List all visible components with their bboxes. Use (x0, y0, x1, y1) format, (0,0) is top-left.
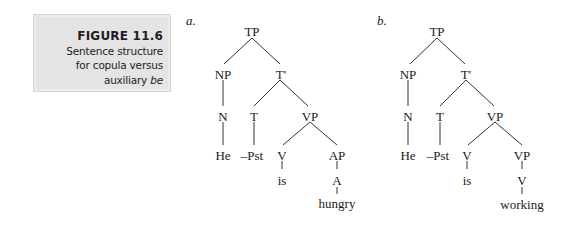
tree-a: a. TP NP T' N T VP He –Pst V AP is A hun… (186, 13, 356, 211)
node-tbar: T' (461, 67, 471, 82)
node-ap: AP (329, 148, 346, 163)
node-n: N (403, 109, 413, 124)
edge (252, 38, 280, 64)
node-v: V (277, 148, 287, 163)
node-a: A (332, 173, 342, 188)
edge (437, 38, 465, 64)
node-np: NP (400, 67, 417, 82)
edge (224, 38, 252, 64)
edge (468, 122, 495, 145)
node-pst: –Pst (426, 148, 450, 163)
edge (495, 122, 522, 145)
node-working: working (500, 197, 544, 212)
edge (410, 38, 437, 64)
node-hungry: hungry (319, 196, 356, 211)
node-tp: TP (244, 24, 259, 39)
node-is: is (278, 173, 287, 188)
panel-label-b: b. (377, 13, 387, 28)
node-vp: VP (487, 109, 504, 124)
node-np: NP (215, 67, 232, 82)
node-tp: TP (429, 24, 444, 39)
node-vp: VP (302, 109, 319, 124)
edge (280, 80, 308, 106)
node-n: N (218, 109, 228, 124)
edge (466, 80, 494, 106)
tree-b: b. TP NP T' N T VP He –Pst V VP is V wor… (377, 13, 544, 212)
node-v: V (462, 148, 472, 163)
edge (283, 122, 310, 145)
node-t: T (250, 109, 258, 124)
node-he: He (400, 148, 415, 163)
node-v-lower: V (517, 173, 527, 188)
panel-label-a: a. (186, 13, 196, 28)
node-pst: –Pst (240, 148, 264, 163)
edge (310, 122, 337, 145)
node-vp-lower: VP (514, 148, 531, 163)
node-is: is (463, 173, 472, 188)
syntax-trees: a. TP NP T' N T VP He –Pst V AP is A hun… (0, 0, 572, 225)
node-tbar: T' (276, 67, 286, 82)
node-he: He (215, 148, 230, 163)
edge (254, 80, 280, 106)
edge (440, 80, 466, 106)
node-t: T (436, 109, 444, 124)
